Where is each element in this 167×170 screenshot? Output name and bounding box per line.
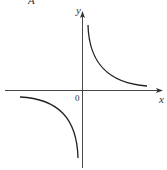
coordinate-plane: [0, 0, 167, 170]
graph-figure: A y 0 x: [0, 0, 167, 170]
y-axis: [80, 11, 85, 168]
curve-branch-quadrant-1: [88, 25, 147, 86]
x-axis-label: x: [159, 94, 164, 105]
origin-label: 0: [75, 94, 80, 103]
x-axis: [5, 88, 163, 93]
y-axis-label: y: [76, 5, 81, 16]
curve-branch-quadrant-3: [20, 97, 78, 158]
